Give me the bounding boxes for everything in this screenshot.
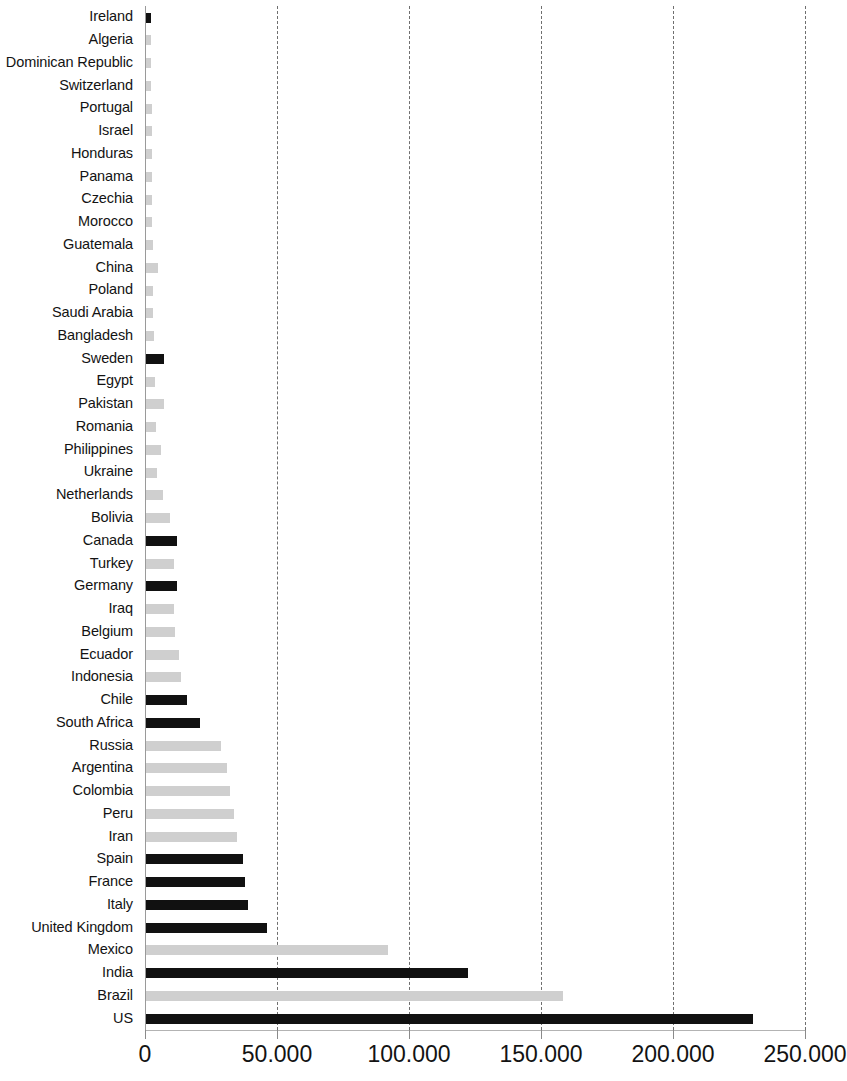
bar [146, 331, 154, 341]
category-label: US [0, 1011, 139, 1026]
bar-row [145, 279, 805, 302]
category-label: Argentina [0, 760, 139, 775]
category-label: Czechia [0, 191, 139, 206]
bar-row [145, 871, 805, 894]
bar [146, 58, 151, 68]
category-axis-labels: IrelandAlgeriaDominican RepublicSwitzerl… [0, 6, 139, 1030]
category-label: Russia [0, 738, 139, 753]
category-label: Peru [0, 806, 139, 821]
bar [146, 945, 388, 955]
bar-row [145, 325, 805, 348]
bar-row [145, 29, 805, 52]
category-label: Netherlands [0, 487, 139, 502]
bar [146, 1014, 753, 1024]
bar-row [145, 6, 805, 29]
bar-row [145, 575, 805, 598]
category-label: South Africa [0, 715, 139, 730]
bar [146, 832, 237, 842]
value-axis-labels: 050.000100.000150.000200.000250.000 [0, 1040, 820, 1080]
category-label: Saudi Arabia [0, 305, 139, 320]
bar-row [145, 1007, 805, 1030]
category-label: Morocco [0, 214, 139, 229]
bar-row [145, 188, 805, 211]
bar [146, 741, 221, 751]
axis-tick [673, 1030, 674, 1039]
axis-tick [145, 1030, 146, 1039]
bar-row [145, 916, 805, 939]
category-label: Indonesia [0, 669, 139, 684]
bar-row [145, 825, 805, 848]
bar-row [145, 757, 805, 780]
category-label: Ireland [0, 9, 139, 24]
bar-row [145, 598, 805, 621]
category-label: India [0, 965, 139, 980]
bar-row [145, 711, 805, 734]
category-label: Israel [0, 123, 139, 138]
value-axis-label: 200.000 [631, 1040, 714, 1068]
bar [146, 650, 179, 660]
bar [146, 991, 563, 1001]
category-label: Chile [0, 692, 139, 707]
category-label: Switzerland [0, 78, 139, 93]
value-axis-label: 50.000 [242, 1040, 312, 1068]
category-label: Pakistan [0, 396, 139, 411]
category-label: Iraq [0, 601, 139, 616]
bar [146, 672, 181, 682]
bar [146, 172, 152, 182]
bar-row [145, 529, 805, 552]
category-label: Brazil [0, 988, 139, 1003]
bar [146, 422, 156, 432]
bar-row [145, 484, 805, 507]
bar-row [145, 211, 805, 234]
category-label: Germany [0, 578, 139, 593]
bar [146, 104, 152, 114]
bar [146, 240, 153, 250]
bar-row [145, 552, 805, 575]
bar-row [145, 52, 805, 75]
category-label: France [0, 874, 139, 889]
bar-row [145, 143, 805, 166]
bar [146, 581, 177, 591]
bar [146, 923, 267, 933]
category-label: Philippines [0, 442, 139, 457]
category-label: Mexico [0, 942, 139, 957]
category-label: Ecuador [0, 647, 139, 662]
bar-row [145, 461, 805, 484]
bar [146, 809, 234, 819]
gridline [805, 6, 806, 1030]
bar [146, 763, 227, 773]
category-label: United Kingdom [0, 920, 139, 935]
bar [146, 445, 161, 455]
category-label: Bangladesh [0, 328, 139, 343]
bar [146, 195, 152, 205]
bar [146, 354, 164, 364]
bar [146, 627, 175, 637]
bar-row [145, 848, 805, 871]
bar [146, 81, 151, 91]
category-label: Guatemala [0, 237, 139, 252]
bar [146, 308, 153, 318]
bar [146, 900, 248, 910]
bar [146, 286, 153, 296]
value-axis-label: 150.000 [499, 1040, 582, 1068]
value-axis-label: 250.000 [763, 1040, 846, 1068]
bar [146, 490, 163, 500]
bar [146, 513, 170, 523]
bar-row [145, 802, 805, 825]
bar-row [145, 643, 805, 666]
bar [146, 468, 157, 478]
bar-row [145, 120, 805, 143]
axis-tick [541, 1030, 542, 1039]
category-label: Italy [0, 897, 139, 912]
bar [146, 854, 243, 864]
bar [146, 786, 230, 796]
category-label: Spain [0, 851, 139, 866]
bar-row [145, 256, 805, 279]
bar [146, 536, 177, 546]
bar-row [145, 620, 805, 643]
category-label: Canada [0, 533, 139, 548]
bar-row [145, 689, 805, 712]
value-axis-label: 100.000 [367, 1040, 450, 1068]
bar [146, 126, 152, 136]
